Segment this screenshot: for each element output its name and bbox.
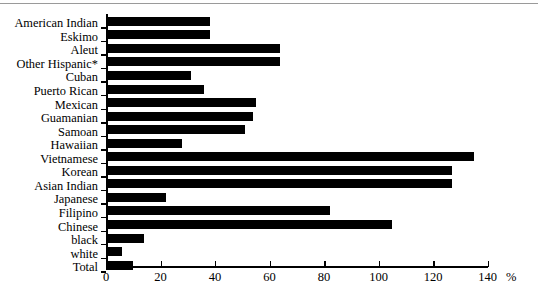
y-axis-tick <box>101 190 106 191</box>
bar <box>106 44 280 53</box>
y-axis-label-other-hispanic: Other Hispanic* <box>16 58 98 70</box>
y-axis-tick <box>101 27 106 28</box>
bar <box>106 247 122 256</box>
x-axis-tick <box>433 261 434 267</box>
y-axis-label-guamanian: Guamanian <box>41 112 98 124</box>
x-axis-tick-label-120: 120 <box>413 270 453 285</box>
x-axis-unit-label: % <box>506 270 516 285</box>
y-axis-label-black: black <box>71 234 98 246</box>
bar <box>106 71 191 80</box>
bar <box>106 125 245 134</box>
y-axis-label-chinese: Chinese <box>58 221 98 233</box>
bar <box>106 261 133 270</box>
y-axis-tick <box>101 149 106 150</box>
x-axis-tick-label-100: 100 <box>359 270 399 285</box>
y-axis-label-eskimo: Eskimo <box>60 31 98 43</box>
y-axis-tick <box>101 68 106 69</box>
bar <box>106 98 256 107</box>
y-axis-label-japanese: Japanese <box>54 193 98 205</box>
y-axis-label-samoan: Samoan <box>58 126 98 138</box>
bar <box>106 139 182 148</box>
y-axis-label-vietnamese: Vietnamese <box>40 153 98 165</box>
y-axis-tick <box>101 95 106 96</box>
y-axis-label-filipino: Filipino <box>59 207 98 219</box>
y-axis-tick <box>101 176 106 177</box>
x-axis-tick <box>324 261 325 267</box>
bar <box>106 193 166 202</box>
bar <box>106 85 204 94</box>
x-axis-tick <box>161 261 162 267</box>
y-axis-label-asian-indian: Asian Indian <box>34 180 98 192</box>
bar <box>106 179 452 188</box>
y-axis-tick <box>101 41 106 42</box>
bar <box>106 206 330 215</box>
bar <box>106 57 280 66</box>
x-axis-tick <box>270 261 271 267</box>
y-axis-tick <box>101 109 106 110</box>
y-axis-tick <box>101 231 106 232</box>
x-axis-tick-label-80: 80 <box>304 270 344 285</box>
bar <box>106 234 144 243</box>
bar <box>106 152 474 161</box>
y-axis-label-puerto-rican: Puerto Rican <box>34 85 98 97</box>
x-axis-tick-label-20: 20 <box>141 270 181 285</box>
y-axis-tick <box>101 122 106 123</box>
y-axis-label-cuban: Cuban <box>66 71 98 83</box>
bar <box>106 220 392 229</box>
x-axis-tick-label-40: 40 <box>195 270 235 285</box>
bar <box>106 166 452 175</box>
y-axis-label-aleut: Aleut <box>70 44 98 56</box>
bar <box>106 30 210 39</box>
plot-area: American IndianEskimoAleutOther Hispanic… <box>0 0 538 296</box>
x-axis-tick-label-60: 60 <box>250 270 290 285</box>
x-axis-tick-label-140: 140 <box>468 270 508 285</box>
x-axis-tick <box>379 261 380 267</box>
x-axis-line <box>106 266 488 268</box>
y-axis-tick <box>101 81 106 82</box>
y-axis-tick <box>101 203 106 204</box>
chart-figure: American IndianEskimoAleutOther Hispanic… <box>0 0 538 296</box>
y-axis-tick <box>101 163 106 164</box>
bar <box>106 112 253 121</box>
y-axis-label-american-indian: American Indian <box>14 17 98 29</box>
y-axis-tick <box>101 217 106 218</box>
x-axis-tick <box>106 261 107 267</box>
bar <box>106 17 210 26</box>
y-axis-tick <box>101 258 106 259</box>
y-axis-label-white: white <box>70 248 98 260</box>
y-axis-tick <box>101 54 106 55</box>
y-axis-tick <box>101 244 106 245</box>
x-axis-tick <box>488 261 489 267</box>
y-axis-label-hawaiian: Hawaiian <box>51 139 98 151</box>
y-axis-tick <box>101 136 106 137</box>
y-axis-label-mexican: Mexican <box>55 99 98 111</box>
y-axis-label-korean: Korean <box>62 166 98 178</box>
x-axis-tick <box>215 261 216 267</box>
x-axis-tick-label-0: 0 <box>86 270 126 285</box>
